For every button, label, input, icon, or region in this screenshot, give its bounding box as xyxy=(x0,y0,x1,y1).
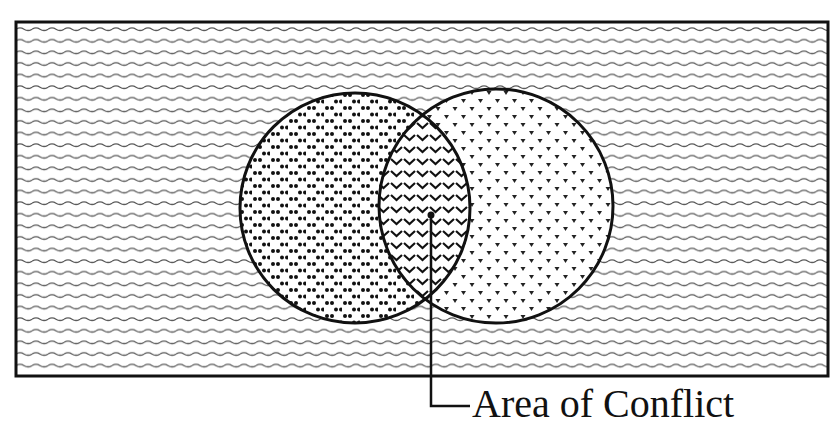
area-of-conflict-label: Area of Conflict xyxy=(472,382,734,426)
venn-diagram xyxy=(0,0,840,430)
